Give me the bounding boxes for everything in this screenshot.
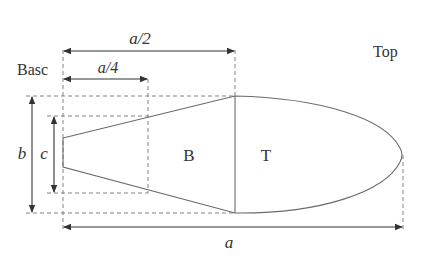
- region-base-label: B: [183, 146, 194, 165]
- leaf-outline: [63, 96, 402, 213]
- width-c-label: c: [40, 144, 48, 163]
- top-label: Top: [373, 43, 398, 61]
- region-top-label: T: [261, 146, 272, 165]
- width-b-label: b: [18, 144, 27, 163]
- shape-outline: [63, 96, 402, 213]
- quarter-length-label: a/4: [98, 59, 118, 76]
- base-label: Basc: [17, 61, 48, 78]
- half-length-label: a/2: [129, 29, 151, 48]
- leaf-shape-diagram: a/2 a/4 Basc Top b c B T a: [0, 0, 429, 267]
- length-a-label: a: [225, 233, 234, 252]
- guide-lines: [26, 50, 403, 232]
- dimension-arrows: [32, 51, 402, 227]
